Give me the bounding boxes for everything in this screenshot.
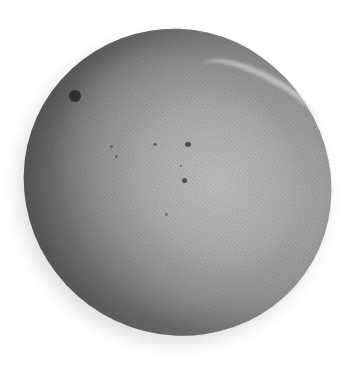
blemish-spot	[180, 165, 182, 167]
mango	[0, 0, 353, 367]
blemish-spot	[165, 213, 168, 216]
blemish-spot	[110, 145, 113, 148]
stem-spot	[69, 90, 81, 102]
mango-skin-texture	[0, 0, 353, 367]
blemish-spot	[185, 142, 191, 147]
blemish-spot	[153, 143, 157, 146]
blemish-spot	[182, 178, 187, 183]
blemish-spot	[115, 155, 118, 158]
photo-canvas	[0, 0, 353, 367]
